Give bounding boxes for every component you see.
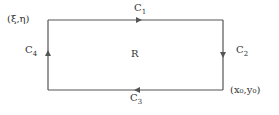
corner-label-x0-y0: (x₀,y₀) — [230, 85, 260, 95]
curve-label-c1: C1 — [134, 3, 146, 16]
arrow-up-icon — [45, 50, 51, 56]
arrow-right-icon — [136, 17, 142, 23]
corner-label-xi-eta: (ξ,η) — [7, 14, 29, 24]
arrow-down-icon — [220, 52, 226, 58]
curve-label-c3: C3 — [130, 93, 142, 106]
region-label: R — [131, 49, 139, 59]
curve-label-c2: C2 — [236, 45, 248, 58]
curve-label-c4: C4 — [25, 45, 37, 58]
